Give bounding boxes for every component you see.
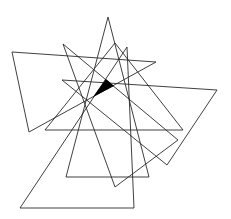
- overlapping-triangles-diagram: [0, 0, 231, 219]
- geometric-figure: [0, 0, 231, 219]
